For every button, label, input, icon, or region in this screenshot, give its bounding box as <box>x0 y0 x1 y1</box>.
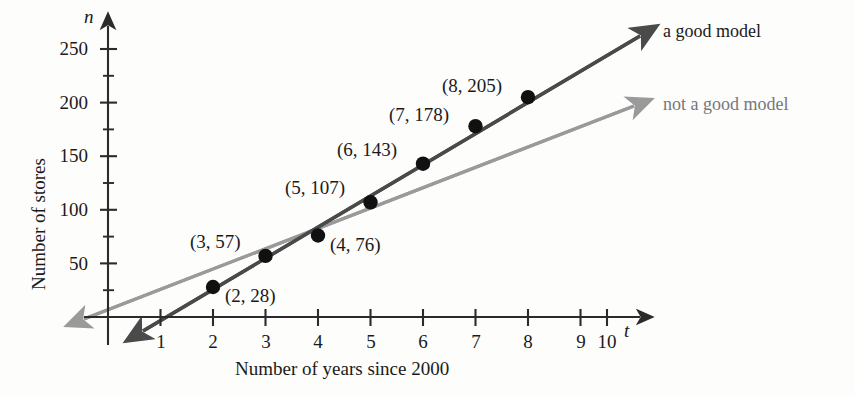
x-tick-label-6: 6 <box>408 331 438 353</box>
legend-label-not-a-good-model: not a good model <box>663 94 788 115</box>
x-tick-label-5: 5 <box>356 331 386 353</box>
data-point <box>416 157 430 171</box>
x-tick-label-4: 4 <box>303 331 333 353</box>
x-axis-variable-label: t <box>624 320 629 342</box>
data-point <box>311 228 325 242</box>
point-label-3-57: (3, 57) <box>190 231 241 253</box>
point-label-2-28: (2, 28) <box>225 285 276 307</box>
y-tick-label-200: 200 <box>42 92 88 114</box>
x-tick-label-1: 1 <box>146 331 176 353</box>
x-axis <box>84 309 640 326</box>
x-tick-label-10: 10 <box>592 331 622 353</box>
data-point <box>468 119 482 133</box>
data-point <box>258 249 272 263</box>
y-axis-title: Number of stores <box>28 158 50 290</box>
y-tick-label-250: 250 <box>42 38 88 60</box>
x-tick-label-8: 8 <box>513 331 543 353</box>
point-label-6-143: (6, 143) <box>337 139 397 161</box>
point-label-4-76: (4, 76) <box>330 234 381 256</box>
data-point <box>206 280 220 294</box>
x-tick-label-7: 7 <box>461 331 491 353</box>
legend-label-a-good-model: a good model <box>663 21 761 42</box>
x-tick-label-3: 3 <box>251 331 281 353</box>
series-line-not-a-good-model <box>84 106 634 319</box>
point-label-5-107: (5, 107) <box>285 177 345 199</box>
x-axis-title: Number of years since 2000 <box>235 358 449 380</box>
y-axis <box>100 26 117 345</box>
point-label-8-205: (8, 205) <box>442 75 502 97</box>
chart-figure: n t 250 200 150 100 50 1 2 3 4 5 6 7 8 9… <box>0 0 855 395</box>
y-axis-variable-label: n <box>84 6 94 28</box>
point-label-7-178: (7, 178) <box>389 104 449 126</box>
data-point <box>363 195 377 209</box>
data-point <box>521 90 535 104</box>
x-tick-label-2: 2 <box>198 331 228 353</box>
